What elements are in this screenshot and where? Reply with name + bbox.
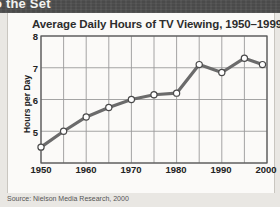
x-tick-1980: 1980 [156, 164, 196, 175]
y-tick-8: 8 [22, 31, 38, 42]
y-tick-5: 5 [22, 127, 38, 138]
chart-card: Average Daily Hours of TV Viewing, 1950–… [7, 13, 275, 193]
x-axis-ticks: 1950 1960 1970 1980 1990 2000 [8, 164, 274, 180]
data-markers [38, 55, 266, 150]
x-tick-2000: 2000 [246, 164, 280, 175]
page-banner: o the Set [0, 0, 280, 13]
y-tick-7: 7 [22, 63, 38, 74]
gridlines [41, 36, 267, 163]
x-tick-1970: 1970 [111, 164, 151, 175]
x-tick-1950: 1950 [21, 164, 61, 175]
x-tick-1960: 1960 [66, 164, 106, 175]
y-tick-6: 6 [22, 95, 38, 106]
data-line [41, 58, 262, 147]
plot-area: Hours per Day 8 7 6 5 1950 1960 1970 198… [8, 13, 274, 193]
banner-heading: o the Set [0, 0, 51, 11]
x-tick-1990: 1990 [201, 164, 241, 175]
source-note: Source: Nielson Media Research, 2000 [7, 195, 129, 202]
